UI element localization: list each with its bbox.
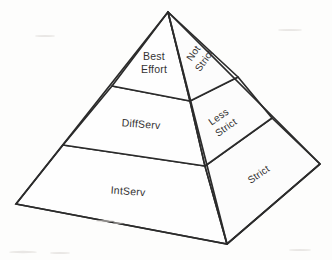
- pyramid-svg-canvas: Best Effort DiffServ IntServ Not Strict …: [0, 0, 332, 260]
- pyramid-diagram: Best Effort DiffServ IntServ Not Strict …: [0, 0, 332, 260]
- label-best-effort-line2: Effort: [141, 63, 167, 75]
- label-group-best-effort: Best Effort: [141, 50, 167, 75]
- label-best-effort-line1: Best: [143, 50, 165, 62]
